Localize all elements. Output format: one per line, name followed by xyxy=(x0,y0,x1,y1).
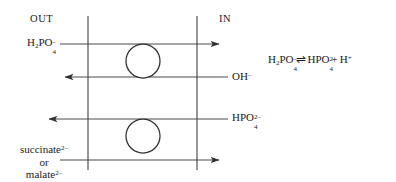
product2-formula: H xyxy=(340,53,348,65)
dicarboxylate-transporter xyxy=(126,119,160,153)
equation-product-hpo4: HPO42– xyxy=(308,53,330,65)
hpo4-in-formula: HPO xyxy=(232,111,254,123)
reactant-charge: – xyxy=(294,56,298,63)
oh-in-charge: – xyxy=(248,71,252,79)
hpo4-in-sub: 4 xyxy=(254,124,258,131)
succinate-charge: 2– xyxy=(61,144,68,152)
product1-formula: HPO xyxy=(308,53,330,65)
h2po4-out-sub2: 4 xyxy=(53,49,57,56)
label-malate: malate2– xyxy=(6,168,82,181)
product1-charge: 2– xyxy=(330,56,337,63)
reactant-formula: H xyxy=(268,53,276,65)
label-oh-in: OH– xyxy=(232,71,251,82)
oh-in-formula: OH xyxy=(232,70,248,82)
label-h2po4-out: H2PO4– xyxy=(27,37,53,48)
succinate-name: succinate xyxy=(20,143,61,155)
compartment-label-in: IN xyxy=(219,14,231,25)
h2po4-out-formula: H xyxy=(27,36,35,48)
label-or: or xyxy=(6,156,82,169)
label-hpo4-in: HPO42– xyxy=(232,112,254,123)
equation-product-proton: H+ xyxy=(340,53,352,65)
phosphate-transporter xyxy=(126,44,160,78)
h2po4-out-mid: PO xyxy=(38,36,52,48)
compartment-label-out: OUT xyxy=(30,14,53,25)
product1-sub: 4 xyxy=(330,66,334,73)
malate-name: malate xyxy=(26,168,55,180)
product2-charge: + xyxy=(348,54,352,62)
hpo4-in-charge: 2– xyxy=(254,114,261,121)
diagram-canvas: OUT IN H2PO4– OH– HPO42– succinate2– or … xyxy=(0,0,396,182)
h2po4-out-charge: – xyxy=(53,39,57,46)
malate-charge: 2– xyxy=(55,169,62,177)
reactant-sub2: 4 xyxy=(294,66,298,73)
label-succinate: succinate2– xyxy=(6,143,82,156)
equation-reactant: H2PO4– xyxy=(268,53,294,65)
phosphate-dissociation-equation: H2PO4–⇌HPO42–+H+ xyxy=(268,53,352,65)
label-dicarboxylates-out: succinate2– or malate2– xyxy=(6,143,82,181)
reactant-mid: PO xyxy=(279,53,293,65)
